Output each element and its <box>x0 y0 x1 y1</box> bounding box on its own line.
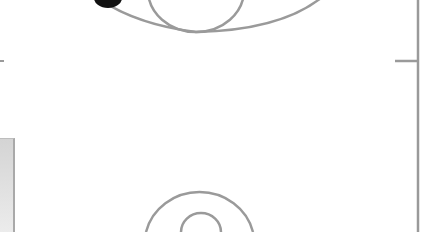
player-marker-icon[interactable] <box>94 0 122 8</box>
court-diagram <box>0 0 422 232</box>
center-circle-inner <box>181 213 221 232</box>
bench-panel <box>0 138 15 232</box>
